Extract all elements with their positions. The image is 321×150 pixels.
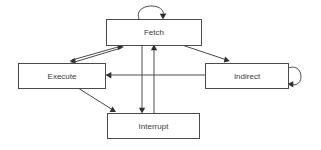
edge-fetch-to-indirect	[182, 45, 230, 63]
edge-execute-to-fetch	[68, 44, 124, 64]
node-interrupt[interactable]: Interrupt	[108, 114, 200, 139]
edge-indirect-self-loop	[288, 67, 302, 87]
edge-fetch-self-loop	[138, 6, 166, 20]
node-indirect-label: Indirect	[234, 72, 261, 81]
node-execute[interactable]: Execute	[19, 64, 106, 89]
node-fetch-label: Fetch	[144, 28, 164, 37]
edge-indirect-to-execute	[106, 72, 206, 78]
node-interrupt-label: Interrupt	[139, 122, 170, 131]
node-indirect[interactable]: Indirect	[206, 64, 289, 89]
state-diagram: Fetch Execute Indirect Interrupt	[0, 0, 321, 150]
diagram-canvas: Fetch Execute Indirect Interrupt	[0, 0, 321, 150]
node-execute-label: Execute	[48, 72, 77, 81]
edge-fetch-to-interrupt	[139, 45, 145, 114]
edge-execute-to-interrupt	[78, 88, 116, 112]
edge-interrupt-to-fetch	[151, 45, 157, 114]
node-fetch[interactable]: Fetch	[107, 20, 202, 46]
